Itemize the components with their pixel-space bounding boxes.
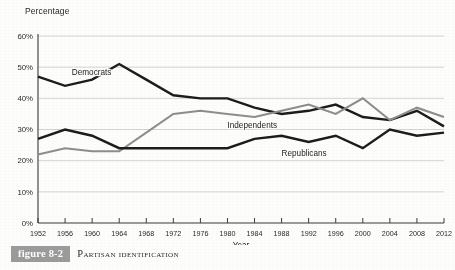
y-tick-label-60: 60% [17,32,33,41]
y-tick-labels-group: 0%10%20%30%40%50%60% [17,32,33,228]
x-tick-label-1984: 1984 [247,229,263,238]
x-tick-label-1952: 1952 [30,229,46,238]
figure-caption: figure 8-2 Partisan Identification [11,246,179,262]
y-tick-label-10: 10% [17,188,33,197]
x-axis-title-group: Year [233,241,250,245]
series-line-republicans [38,130,444,149]
data-series-group [38,64,444,154]
x-tick-label-1956: 1956 [57,229,73,238]
x-tick-label-2008: 2008 [409,229,425,238]
figure-number-badge: figure 8-2 [11,246,70,262]
x-tick-label-1996: 1996 [328,229,344,238]
x-tick-label-2012: 2012 [436,229,452,238]
figure-container: Percentage 0%10%20%30%40%50%60% 19521956… [0,0,455,270]
x-tick-label-1992: 1992 [301,229,317,238]
figure-caption-title: Partisan Identification [77,248,179,259]
series-label-democrats: Democrats [72,68,112,77]
x-tick-label-1976: 1976 [192,229,208,238]
x-tick-label-1980: 1980 [219,229,235,238]
series-label-republicans: Republicans [282,149,327,158]
x-tick-label-1988: 1988 [274,229,290,238]
y-tick-label-30: 30% [17,125,33,134]
x-tick-label-1960: 1960 [84,229,100,238]
x-axis-title: Year [233,241,250,245]
partisan-identification-line-chart: 0%10%20%30%40%50%60% 1952195619601964196… [0,0,455,245]
x-tick-label-2000: 2000 [355,229,371,238]
x-tick-label-1972: 1972 [165,229,181,238]
x-tick-label-2004: 2004 [382,229,398,238]
x-tick-labels-group: 1952195619601964196819721976198019841988… [30,229,452,238]
y-tick-label-20: 20% [17,156,33,165]
y-tick-label-50: 50% [17,63,33,72]
y-tick-label-40: 40% [17,94,33,103]
y-tick-label-0: 0% [22,219,33,228]
x-tick-label-1964: 1964 [111,229,127,238]
series-label-independents: Independents [227,121,277,130]
x-tick-label-1968: 1968 [138,229,154,238]
